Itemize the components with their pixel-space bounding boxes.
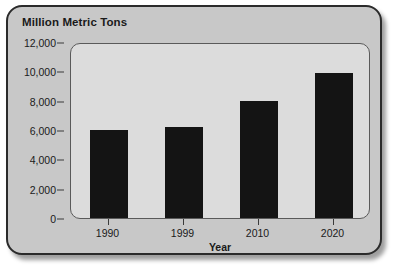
y-tick-label: 0 — [50, 213, 56, 225]
x-tick-label: 2010 — [246, 227, 269, 239]
y-tick-mark — [57, 72, 64, 73]
y-tick-label: 2,000 — [30, 184, 56, 196]
x-tick-mark — [258, 219, 259, 225]
x-tick-mark — [183, 219, 184, 225]
y-tick-mark — [57, 101, 64, 102]
chart-panel: Million Metric Tons 02,0004,0006,0008,00… — [6, 5, 382, 255]
bar — [240, 101, 278, 218]
y-tick-label: 12,000 — [24, 37, 56, 49]
y-tick-mark — [57, 189, 64, 190]
x-tick-mark — [333, 219, 334, 225]
bar — [165, 127, 203, 218]
y-tick-label: 6,000 — [30, 125, 56, 137]
x-tick-label: 1999 — [171, 227, 194, 239]
y-tick-mark — [57, 160, 64, 161]
y-tick-label: 4,000 — [30, 154, 56, 166]
bar — [90, 130, 128, 218]
x-tick-label: 1990 — [96, 227, 119, 239]
y-tick-label: 8,000 — [30, 96, 56, 108]
bar-chart-figure: Million Metric Tons 02,0004,0006,0008,00… — [0, 0, 394, 270]
bars-layer — [71, 44, 369, 218]
y-axis: 02,0004,0006,0008,00010,00012,000 — [8, 43, 64, 219]
x-tick-mark — [108, 219, 109, 225]
plot-area — [70, 43, 370, 219]
bar — [315, 73, 353, 218]
y-tick-mark — [57, 131, 64, 132]
y-tick-mark — [57, 43, 64, 44]
y-tick-label: 10,000 — [24, 66, 56, 78]
x-tick-label: 2020 — [321, 227, 344, 239]
x-axis-title: Year — [70, 241, 370, 253]
chart-title: Million Metric Tons — [22, 16, 127, 28]
y-tick-mark — [57, 219, 64, 220]
